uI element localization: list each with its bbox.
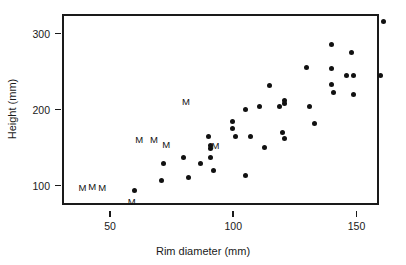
x-axis-tick — [356, 211, 358, 217]
data-point — [381, 19, 386, 24]
data-point — [351, 92, 356, 97]
y-axis-tick-label: 200 — [17, 104, 50, 116]
data-marker-m: M — [212, 141, 220, 151]
data-point — [257, 104, 262, 109]
data-point — [329, 82, 334, 87]
data-point — [233, 134, 238, 139]
data-point — [329, 66, 334, 71]
data-point — [181, 155, 186, 160]
data-point — [282, 101, 287, 106]
data-point — [230, 119, 235, 124]
data-point — [344, 73, 349, 78]
data-point — [248, 134, 253, 139]
y-axis-tick-label: 300 — [17, 28, 50, 40]
data-point — [331, 90, 336, 95]
data-point — [243, 107, 248, 112]
data-point — [208, 155, 213, 160]
data-point — [159, 178, 164, 183]
data-marker-m: M — [98, 183, 106, 193]
data-point — [230, 126, 235, 131]
data-point — [186, 175, 191, 180]
data-marker-m: M — [128, 197, 136, 207]
data-point — [267, 83, 272, 88]
data-point — [282, 136, 287, 141]
plot-frame: MMMMMMMMM — [62, 14, 379, 205]
x-axis-label: Rim diameter (mm) — [0, 245, 406, 257]
plot-data-area: MMMMMMMMM — [64, 16, 377, 203]
data-point — [351, 73, 356, 78]
scatter-plot-figure: MMMMMMMMM Rim diameter (mm) Height (mm) … — [0, 0, 406, 265]
x-axis-tick-label: 150 — [348, 220, 366, 232]
data-point — [312, 121, 317, 126]
data-point — [262, 145, 267, 150]
data-marker-m: M — [88, 182, 96, 192]
data-point — [307, 104, 312, 109]
data-marker-m: M — [78, 184, 86, 194]
x-axis-tick — [109, 211, 111, 217]
data-point — [211, 168, 216, 173]
data-point — [206, 134, 211, 139]
data-marker-m: M — [182, 98, 190, 108]
data-point — [132, 188, 137, 193]
x-axis-tick-label: 50 — [104, 220, 116, 232]
data-point — [349, 50, 354, 55]
x-axis-tick-label: 100 — [224, 220, 242, 232]
data-point — [280, 130, 285, 135]
y-axis-tick — [55, 109, 61, 111]
data-point — [304, 65, 309, 70]
data-point — [198, 161, 203, 166]
data-marker-m: M — [135, 136, 143, 146]
x-axis-tick — [232, 211, 234, 217]
y-axis-tick — [55, 33, 61, 35]
data-marker-m: M — [150, 135, 158, 145]
data-point — [378, 73, 383, 78]
data-point — [161, 161, 166, 166]
y-axis-tick-label: 100 — [17, 180, 50, 192]
data-marker-m: M — [162, 140, 170, 150]
y-axis-tick — [55, 185, 61, 187]
data-point — [329, 42, 334, 47]
data-point — [243, 173, 248, 178]
